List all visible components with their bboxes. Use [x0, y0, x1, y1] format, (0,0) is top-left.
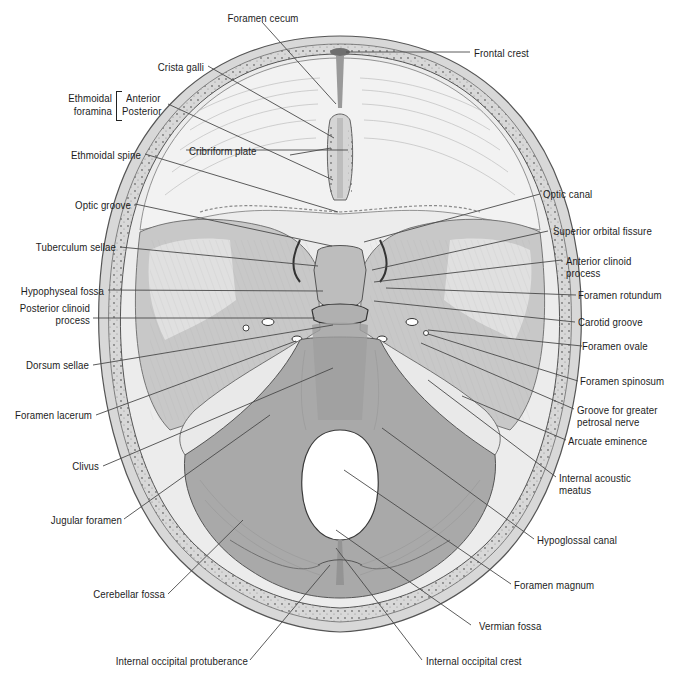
- label-foramen-magnum: Foramen magnum: [514, 579, 594, 591]
- label-superior-orbital-fissure: Superior orbital fissure: [553, 225, 652, 237]
- label-anterior-clinoid-2: process: [566, 267, 600, 279]
- label-vermian-fossa: Vermian fossa: [479, 620, 541, 632]
- label-hypoglossal-canal: Hypoglossal canal: [537, 534, 617, 546]
- label-foramen-ovale: Foramen ovale: [582, 340, 648, 352]
- label-internal-occipital-crest: Internal occipital crest: [426, 655, 522, 667]
- label-groove-greater-petrosal-2: petrosal nerve: [577, 416, 640, 428]
- label-jugular-foramen: Jugular foramen: [15, 514, 122, 526]
- label-optic-canal: Optic canal: [543, 188, 592, 200]
- anterior-cranial-fossa: [140, 48, 540, 230]
- label-internal-acoustic-meatus-1: Internal acoustic: [559, 472, 631, 484]
- label-cerebellar-fossa: Cerebellar fossa: [19, 588, 165, 600]
- label-internal-acoustic-meatus-2: meatus: [559, 484, 591, 496]
- label-groove-greater-petrosal-1: Groove for greater: [577, 404, 658, 416]
- label-frontal-crest: Frontal crest: [474, 47, 529, 59]
- label-dorsum-sellae: Dorsum sellae: [13, 359, 89, 371]
- label-foramen-rotundum: Foramen rotundum: [578, 289, 662, 301]
- label-crista-galli: Crista galli: [108, 61, 204, 73]
- label-posterior-clinoid-1: Posterior clinoid: [13, 302, 90, 314]
- label-posterior-clinoid-2: process: [13, 314, 90, 326]
- label-optic-groove: Optic groove: [29, 199, 131, 211]
- label-anterior-ethmoidal: Anterior: [126, 92, 161, 104]
- label-ethmoidal-foramina-1: Ethmoidal: [46, 92, 112, 104]
- label-anterior-clinoid-1: Anterior clinoid: [566, 255, 631, 267]
- label-arcuate-eminence: Arcuate eminence: [568, 435, 647, 447]
- label-ethmoidal-foramina-2: foramina: [46, 105, 112, 117]
- label-foramen-spinosum: Foramen spinosum: [580, 375, 664, 387]
- label-posterior-ethmoidal: Posterior: [122, 105, 161, 117]
- label-ethmoidal-spine: Ethmoidal spine: [30, 149, 141, 161]
- label-tuberculum-sellae: Tuberculum sellae: [28, 241, 116, 253]
- label-internal-occipital-protuberance: Internal occipital protuberance: [75, 655, 248, 667]
- label-clivus: Clivus: [13, 460, 99, 472]
- label-foramen-lacerum: Foramen lacerum: [13, 409, 92, 421]
- label-foramen-cecum: Foramen cecum: [194, 12, 332, 24]
- label-hypophyseal-fossa: Hypophyseal fossa: [14, 285, 104, 297]
- label-carotid-groove: Carotid groove: [578, 316, 643, 328]
- label-cribriform-plate: Cribriform plate: [189, 145, 257, 157]
